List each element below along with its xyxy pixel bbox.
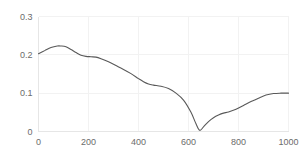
series-line (39, 46, 289, 131)
x-axis-tick-label: 800 (231, 137, 246, 147)
chart-canvas: 00.10.20.302004006008001000 (0, 0, 304, 155)
y-axis-tick-label: 0.1 (20, 88, 33, 98)
y-axis-tick-label: 0 (27, 127, 32, 137)
line-chart: 00.10.20.302004006008001000 (0, 0, 304, 155)
x-axis-tick-label: 200 (81, 137, 96, 147)
x-axis-tick-label: 1000 (278, 137, 298, 147)
x-axis-tick-label: 400 (131, 137, 146, 147)
y-axis-tick-label: 0.3 (20, 12, 33, 22)
y-axis-tick-label: 0.2 (20, 50, 33, 60)
x-axis-tick-label: 0 (36, 137, 41, 147)
x-axis-tick-label: 600 (181, 137, 196, 147)
